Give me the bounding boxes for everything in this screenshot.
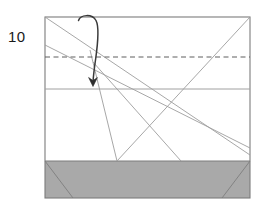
origami-diagram-figure: 10 [0,0,265,205]
shaded-band-shape [45,161,250,198]
crease-convergence-to-band-right [93,62,181,161]
crease-left-edge-to-lower-right [45,45,250,148]
crease-top-left-to-bottom-right [45,17,250,155]
origami-diagram-canvas [0,0,265,205]
